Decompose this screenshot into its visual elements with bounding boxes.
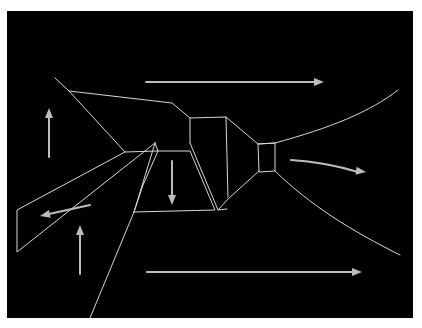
edge-roof-line	[69, 91, 275, 144]
edge-upper-left-diagonal	[55, 78, 158, 152]
edge-trapezoid-side	[190, 143, 227, 210]
edge-trapezoid-inner	[134, 143, 155, 212]
exit-curved-arrow-icon	[291, 160, 366, 175]
flow-diagram	[0, 0, 422, 328]
edge-left-strip-outer	[90, 143, 158, 318]
flow-arrows	[40, 78, 366, 276]
edge-box-right-vertical	[226, 117, 228, 197]
lower-left-up-arrow-icon	[76, 225, 84, 274]
diagram-canvas	[0, 0, 422, 328]
edge-upper-flare	[275, 90, 398, 143]
bottom-right-arrow-icon	[147, 268, 362, 276]
edge-nozzle-box	[258, 143, 275, 172]
left-up-arrow-icon	[45, 108, 53, 157]
strip-down-left-arrow-icon	[40, 205, 90, 218]
edge-left-strip	[17, 143, 155, 252]
top-right-arrow-icon	[146, 78, 324, 86]
structure-edges	[17, 78, 400, 318]
edge-trapezoid	[134, 151, 215, 212]
edge-box-bottom	[218, 171, 259, 210]
edge-lower-flare	[275, 171, 400, 255]
center-down-arrow-icon	[168, 161, 176, 205]
